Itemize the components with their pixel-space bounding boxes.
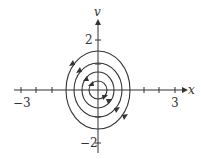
x-axis xyxy=(14,87,188,93)
arrow-icon xyxy=(88,81,94,86)
y-axis xyxy=(95,19,101,153)
x-min-label: −3 xyxy=(13,96,31,110)
phase-portrait: v x −3 3 2 −2 xyxy=(0,0,201,159)
arrow-icon xyxy=(122,114,128,120)
arrow-icon xyxy=(83,76,89,81)
arrow-icon xyxy=(69,60,75,66)
y-max-label: 2 xyxy=(85,33,93,47)
x-max-label: 3 xyxy=(171,96,179,110)
x-axis-label: x xyxy=(188,83,195,97)
y-axis-arrow-icon xyxy=(95,19,101,25)
arrow-icon xyxy=(114,107,120,113)
y-axis-label: v xyxy=(94,5,101,19)
arrow-icon xyxy=(76,67,82,73)
y-min-label: −2 xyxy=(80,136,98,150)
